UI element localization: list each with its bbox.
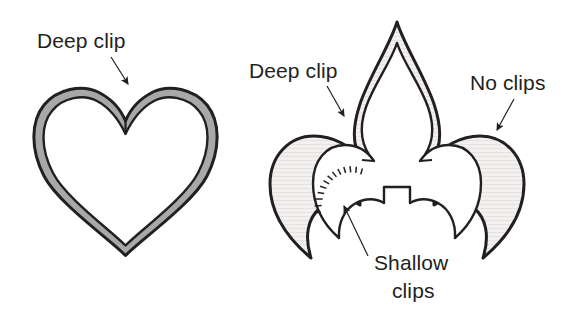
- annotation-label-fleur-no-clips: No clips: [470, 71, 546, 94]
- diagram-canvas: Deep clip Deep clip No clips Shallow cli…: [0, 0, 579, 317]
- annotation-label-heart-deep-clip: Deep clip: [37, 29, 125, 52]
- fleur-deep-clip-notch-right: [420, 160, 432, 161]
- fleur-deep-clip-notch: [362, 160, 374, 161]
- annotation-label-shallow-clips-line1: Shallow: [374, 251, 449, 274]
- annotation-label-fleur-deep-clip: Deep clip: [249, 59, 337, 82]
- annotation-label-shallow-clips-line2: clips: [392, 279, 435, 302]
- figure-root: Deep clip Deep clip No clips Shallow cli…: [0, 0, 579, 317]
